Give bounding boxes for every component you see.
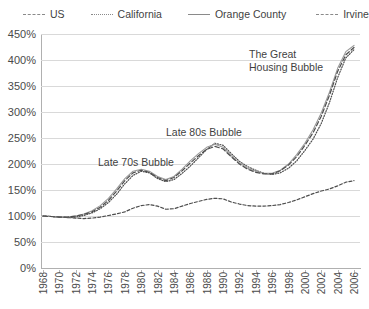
x-axis-tick-label: 1986 xyxy=(185,272,196,294)
x-axis-tick-label: 1994 xyxy=(251,272,262,294)
series-line-us xyxy=(43,181,354,219)
x-axis-tick-label: 1970 xyxy=(54,272,65,294)
annotation-line-1: The Great xyxy=(249,48,323,61)
x-axis-labels: 1968197019721974197619781980198219841986… xyxy=(41,270,361,309)
y-axis-tick-label: 200% xyxy=(8,158,36,170)
x-axis-tick-label: 2006 xyxy=(349,272,360,294)
y-axis-labels: 0%50%100%150%200%250%300%350%400%450% xyxy=(0,0,40,309)
x-axis-tick-label: 1998 xyxy=(284,272,295,294)
x-axis-tick-label: 1980 xyxy=(136,272,147,294)
x-axis-tick-label: 1968 xyxy=(38,272,49,294)
legend-label-irvine: Irvine xyxy=(343,8,369,20)
legend-item-orange-county[interactable]: Orange County xyxy=(188,8,286,20)
y-axis-tick-label: 450% xyxy=(8,28,36,40)
y-axis-tick-label: 300% xyxy=(8,106,36,118)
legend-key-irvine-icon xyxy=(316,10,338,19)
annotation-late-70s-bubble: Late 70s Bubble xyxy=(98,156,174,169)
y-axis-tick-label: 250% xyxy=(8,132,36,144)
x-axis-tick-label: 1984 xyxy=(169,272,180,294)
annotation-line-2: Housing Bubble xyxy=(249,61,323,74)
x-axis-tick-label: 1992 xyxy=(234,272,245,294)
legend-label-orange-county: Orange County xyxy=(215,8,286,20)
x-axis-tick-label: 1996 xyxy=(267,272,278,294)
x-axis-tick-label: 2004 xyxy=(333,272,344,294)
x-axis-tick-label: 1974 xyxy=(87,272,98,294)
y-axis-tick-label: 50% xyxy=(14,236,36,248)
y-axis-tick-label: 150% xyxy=(8,184,36,196)
annotation-late-80s-bubble: Late 80s Bubble xyxy=(166,126,242,139)
x-axis-tick-label: 2000 xyxy=(300,272,311,294)
legend-label-california: California xyxy=(118,8,162,20)
annotation-the-great-housing-bubble: The Great Housing Bubble xyxy=(249,48,323,74)
x-axis-tick-label: 2002 xyxy=(316,272,327,294)
legend-key-orange-county-icon xyxy=(188,10,210,19)
x-axis-tick-label: 1988 xyxy=(202,272,213,294)
x-axis-line xyxy=(41,268,361,269)
y-axis-tick-label: 400% xyxy=(8,54,36,66)
x-axis-tick-label: 1976 xyxy=(103,272,114,294)
x-axis-tick-label: 1978 xyxy=(120,272,131,294)
x-axis-tick-label: 1982 xyxy=(153,272,164,294)
legend-key-california-icon xyxy=(91,10,113,19)
chart-legend: US California Orange County Irvine xyxy=(0,4,364,24)
y-axis-tick-label: 0% xyxy=(20,262,36,274)
x-axis-tick-label: 1972 xyxy=(71,272,82,294)
legend-item-california[interactable]: California xyxy=(91,8,162,20)
legend-item-irvine[interactable]: Irvine xyxy=(316,8,369,20)
x-axis-tick-label: 1990 xyxy=(218,272,229,294)
y-axis-tick-label: 350% xyxy=(8,80,36,92)
legend-label-us: US xyxy=(50,8,65,20)
y-axis-tick-label: 100% xyxy=(8,210,36,222)
